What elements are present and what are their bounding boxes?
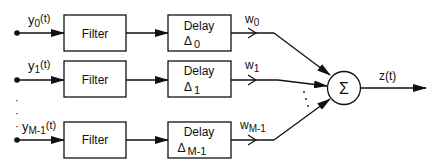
filter-label-0: Filter (82, 27, 109, 41)
output-label: z(t) (379, 69, 396, 83)
summer-ellipsis (303, 91, 309, 107)
input-label-1: y1(t) (28, 58, 50, 75)
channel-1: y1(t) Filter Delay Δ1 w1 (14, 58, 327, 97)
input-label-0: y0(t) (28, 12, 50, 29)
channel-m-1: yM-1(t) Filter Delay ΔM-1 wM-1 (14, 99, 330, 158)
input-ellipsis: · · · (15, 94, 19, 132)
delay-label-0: Delay (184, 19, 215, 33)
input-label-m-1: yM-1(t) (22, 119, 56, 136)
weight-label-1: w1 (244, 58, 260, 74)
delay-label-1: Delay (184, 64, 215, 78)
sigma-symbol: Σ (339, 80, 349, 97)
svg-text:·: · (15, 120, 19, 132)
beamformer-diagram: y0(t) Filter Delay Δ0 w0 y1(t) Filter De… (0, 0, 440, 167)
summing-junction: Σ (328, 72, 361, 105)
filter-label-m-1: Filter (82, 133, 109, 147)
svg-text:·: · (15, 107, 19, 119)
weight-label-m-1: wM-1 (239, 118, 266, 134)
svg-text:·: · (15, 94, 19, 106)
delay-label-m-1: Delay (184, 125, 215, 139)
output: z(t) (361, 69, 426, 88)
weight-label-0: w0 (244, 12, 260, 28)
filter-label-1: Filter (82, 73, 109, 87)
